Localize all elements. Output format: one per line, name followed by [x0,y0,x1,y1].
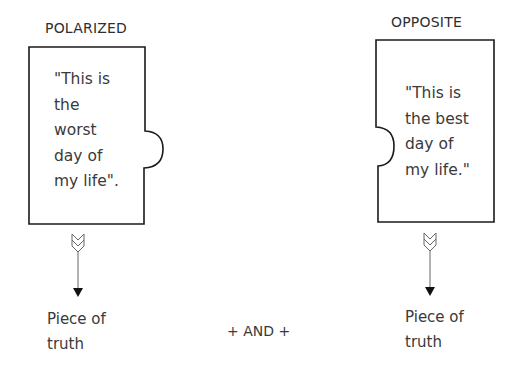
result-line: Piece of [47,307,106,332]
quote-line: my life". [54,169,119,195]
left-arrowhead-icon [73,288,83,297]
quote-line: "This is [405,81,470,107]
quote-line: "This is [54,67,119,93]
left-heading: POLARIZED [45,20,127,36]
quote-line: the best [405,107,470,133]
left-down-arrow-icon [72,234,84,290]
result-line: truth [47,332,106,357]
quote-line: worst [54,118,119,144]
right-quote: "This is the best day of my life." [405,81,470,183]
and-connector: + AND + [227,323,290,339]
left-result: Piece of truth [47,307,106,357]
quote-line: day of [405,132,470,158]
quote-line: day of [54,144,119,170]
quote-line: the [54,93,119,119]
right-result: Piece of truth [405,305,464,355]
right-heading: OPPOSITE [391,14,462,30]
right-arrowhead-icon [425,287,435,296]
right-down-arrow-icon [424,233,436,288]
result-line: Piece of [405,305,464,330]
result-line: truth [405,330,464,355]
quote-line: my life." [405,158,470,184]
left-quote: "This is the worst day of my life". [54,67,119,195]
